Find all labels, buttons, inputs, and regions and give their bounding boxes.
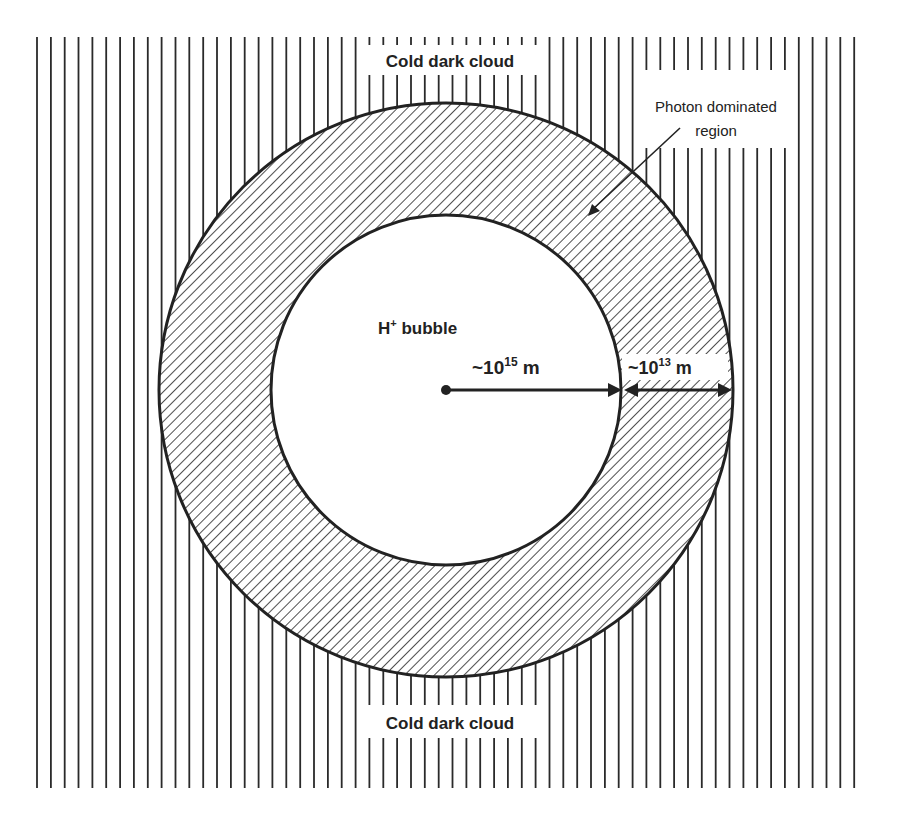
cold-dark-cloud-label-bottom: Cold dark cloud	[386, 714, 514, 733]
pdr-label-line2: region	[695, 122, 737, 139]
cold-dark-cloud-label-top: Cold dark cloud	[386, 52, 514, 71]
h-ii-region-diagram: Cold dark cloud Cold dark cloud Photon d…	[0, 0, 898, 819]
pdr-label-line1: Photon dominated	[655, 98, 777, 115]
h-plus-bubble-label: H+ bubble	[378, 317, 457, 338]
